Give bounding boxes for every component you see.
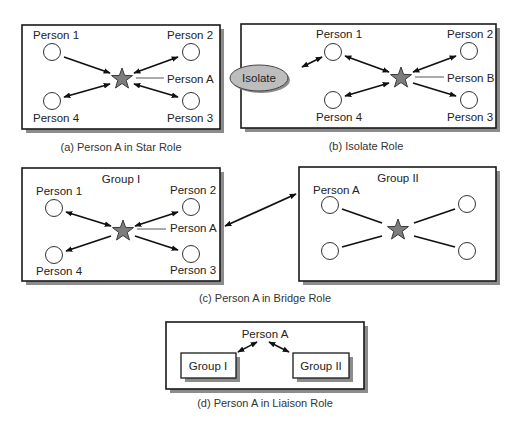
label-person-3: Person 3 bbox=[170, 264, 216, 276]
label-person-b: Person B bbox=[447, 72, 495, 84]
panel-b-isolate-role: Person 1 Person 2 Person B Person 4 Pers… bbox=[230, 24, 500, 152]
person-4-node bbox=[46, 247, 63, 264]
caption-b: (b) Isolate Role bbox=[329, 140, 404, 152]
caption-c: (c) Person A in Bridge Role bbox=[199, 292, 331, 304]
person-2-node bbox=[461, 43, 478, 60]
person-4-node bbox=[44, 93, 61, 110]
person-2-node bbox=[183, 199, 200, 216]
communication-roles-diagram: Person 1 Person 2 Person A Person 4 Pers… bbox=[0, 0, 521, 423]
label-person-3: Person 3 bbox=[167, 112, 213, 124]
label-person-a: Person A bbox=[170, 222, 217, 234]
member-node bbox=[459, 196, 476, 213]
group-1-title: Group I bbox=[102, 173, 140, 185]
label-person-4: Person 4 bbox=[316, 111, 363, 123]
label-person-1: Person 1 bbox=[316, 28, 362, 40]
label-group-2: Group II bbox=[300, 360, 342, 372]
label-person-3: Person 3 bbox=[447, 111, 493, 123]
label-person-a: Person A bbox=[242, 328, 289, 340]
person-2-node bbox=[183, 44, 200, 61]
label-person-2: Person 2 bbox=[170, 184, 216, 196]
person-4-node bbox=[325, 92, 342, 109]
label-group-1: Group I bbox=[189, 360, 227, 372]
label-person-2: Person 2 bbox=[447, 28, 493, 40]
label-person-4: Person 4 bbox=[36, 265, 83, 277]
person-3-node bbox=[183, 246, 200, 263]
panel-a-star-role: Person 1 Person 2 Person A Person 4 Pers… bbox=[22, 25, 224, 153]
label-person-a: Person A bbox=[313, 184, 360, 196]
group-2-title: Group II bbox=[377, 172, 419, 184]
panel-c-bridge-role: Group I Person 1 Person 2 Person A Perso… bbox=[22, 167, 500, 304]
person-3-node bbox=[461, 92, 478, 109]
person-1-node bbox=[325, 44, 342, 61]
member-node bbox=[322, 197, 339, 214]
label-person-a: Person A bbox=[167, 73, 214, 85]
person-1-node bbox=[44, 44, 61, 61]
label-person-1: Person 1 bbox=[33, 29, 79, 41]
label-person-2: Person 2 bbox=[167, 29, 213, 41]
member-node bbox=[459, 243, 476, 260]
person-3-node bbox=[183, 93, 200, 110]
member-node bbox=[322, 243, 339, 260]
person-1-node bbox=[46, 200, 63, 217]
panel-d-liaison-role: Person A Group I Group II (d) Person A i… bbox=[166, 322, 368, 409]
label-person-4: Person 4 bbox=[33, 112, 80, 124]
caption-a: (a) Person A in Star Role bbox=[60, 141, 181, 153]
label-isolate: Isolate bbox=[242, 72, 276, 84]
caption-d: (d) Person A in Liaison Role bbox=[197, 397, 333, 409]
bridge-arrow bbox=[225, 194, 296, 226]
label-person-1: Person 1 bbox=[36, 185, 82, 197]
